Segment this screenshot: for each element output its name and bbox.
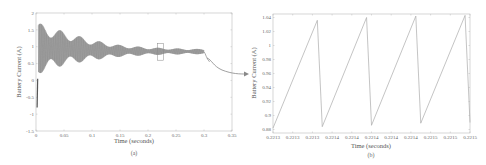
x-tick-label: 0.2213 [286,135,300,140]
x-tick-label: 0.2214 [345,135,359,140]
x-tick-label: 0.2213 [266,135,280,140]
y-tick-label: 0.94 [262,85,271,90]
x-tick-label: 0.2213 [306,135,320,140]
y-tick-label: 1 [32,44,35,49]
x-tick-label: 0.1 [89,133,96,138]
y-tick-label: 0.98 [262,57,271,62]
chart-b-xlabel: Time (seconds) [351,142,391,150]
chart-b-waveform [273,15,470,128]
y-tick-label: 1.04 [262,15,271,20]
y-tick-label: -1 [30,112,35,117]
figure: 00.050.10.150.20.250.30.35-1.5-1-0.500.5… [0,0,486,165]
chart-b: 0.22130.22130.22130.22140.22140.22140.22… [250,14,477,159]
y-tick-label: 0.5 [28,61,35,66]
y-tick-label: 0.88 [262,127,271,132]
x-tick-label: 0.2215 [424,135,438,140]
y-tick-label: 1 [269,43,272,48]
chart-b-frame [273,14,470,133]
x-tick-label: 0.05 [60,133,69,138]
x-tick-label: 0.2215 [443,135,457,140]
chart-a-caption: (a) [131,150,138,157]
connector-arrow [207,58,246,74]
x-tick-label: 0.35 [228,133,237,138]
y-tick-label: 0.92 [262,99,271,104]
x-tick-label: 0.3 [201,133,208,138]
y-tick-label: 1.5 [28,28,35,33]
x-tick-label: 0.2214 [404,135,418,140]
chart-a: 00.050.10.150.20.250.30.35-1.5-1-0.500.5… [15,11,237,157]
chart-a-frame [36,13,232,131]
y-tick-label: -0.5 [26,95,34,100]
x-tick-label: 0.2214 [365,135,379,140]
y-tick-label: 0.9 [265,113,272,118]
chart-b-ylabel: Battery Current (A) [250,47,258,98]
chart-a-ylabel: Battery Current (A) [15,46,23,97]
y-tick-label: 0.96 [262,71,271,76]
chart-a-xlabel: Time (seconds) [114,137,154,145]
x-tick-label: 0.2214 [384,135,398,140]
y-tick-label: 0 [32,78,35,83]
chart-b-caption: (b) [368,152,375,159]
x-tick-label: 0.2214 [325,135,339,140]
y-tick-label: 2 [32,11,35,16]
chart-a-ticks: 00.050.10.150.20.250.30.35-1.5-1-0.500.5… [26,11,237,138]
arrow-head-icon [244,72,249,77]
chart-a-waveform [37,24,209,108]
chart-b-ticks: 0.22130.22130.22130.22140.22140.22140.22… [262,14,477,140]
x-tick-label: 0.25 [172,133,181,138]
y-tick-label: 1.02 [262,29,271,34]
x-tick-label: 0 [35,133,38,138]
x-tick-label: 0.2215 [463,135,477,140]
y-tick-label: -1.5 [26,129,34,134]
